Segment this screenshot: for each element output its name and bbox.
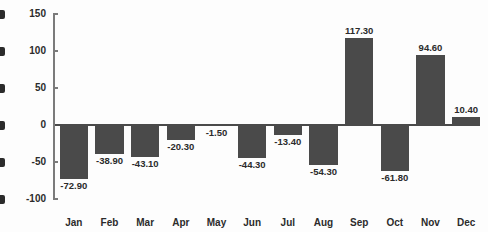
- x-axis-category-label: Feb: [92, 217, 128, 228]
- bar: [95, 125, 124, 154]
- bar: [238, 125, 267, 158]
- bar: [416, 55, 445, 125]
- bar: [381, 125, 410, 171]
- bar: [131, 125, 160, 157]
- x-axis-category-label: Sep: [341, 217, 377, 228]
- bar: [202, 125, 231, 126]
- bar: [274, 125, 303, 135]
- edge-fragment-0: [0, 121, 5, 130]
- edge-fragment-50: [0, 84, 5, 93]
- bar: [345, 38, 374, 125]
- x-axis-category-label: Jun: [234, 217, 270, 228]
- edge-fragment-100: [0, 47, 5, 56]
- bar-chart: 150100500-50-100 -72.90-38.90-43.10-20.3…: [0, 0, 488, 232]
- bar-value-label: -54.30: [306, 167, 342, 177]
- bar: [60, 125, 89, 179]
- y-axis-tick-labels: 150100500-50-100: [14, 0, 46, 232]
- bar-value-label: -61.80: [377, 173, 413, 183]
- x-axis-category-label: Jan: [56, 217, 92, 228]
- bar-value-label: -1.50: [199, 128, 235, 138]
- x-axis-category-label: Oct: [377, 217, 413, 228]
- x-axis-category-label: Dec: [448, 217, 484, 228]
- bar: [167, 125, 196, 140]
- bar-value-label: -44.30: [234, 160, 270, 170]
- bar-value-label: -13.40: [270, 137, 306, 147]
- y-axis-tick-label: 100: [29, 46, 46, 56]
- y-axis-tick-label: 50: [35, 83, 46, 93]
- bar-value-label: -43.10: [127, 159, 163, 169]
- x-axis-category-label: Nov: [413, 217, 449, 228]
- x-axis-category-label: May: [199, 217, 235, 228]
- bar-value-label: 10.40: [448, 105, 484, 115]
- bar-value-label: -72.90: [56, 181, 92, 191]
- bar-value-label: -20.30: [163, 142, 199, 152]
- y-axis-tick-label: -50: [32, 157, 46, 167]
- x-axis-category-label: Apr: [163, 217, 199, 228]
- x-axis-category-label: Aug: [306, 217, 342, 228]
- y-axis-tick-label: 150: [29, 9, 46, 19]
- edge-fragment-150: [0, 10, 5, 19]
- x-axis-category-label: Mar: [127, 217, 163, 228]
- y-axis-tick-label: -100: [26, 194, 46, 204]
- edge-fragment-neg50: [0, 158, 5, 167]
- bar-value-label: 117.30: [341, 26, 377, 36]
- y-axis-tick-label: 0: [40, 120, 46, 130]
- plot-area: -72.90-38.90-43.10-20.30-1.50-44.30-13.4…: [55, 0, 488, 232]
- x-axis-category-label: Jul: [270, 217, 306, 228]
- bar: [452, 117, 481, 125]
- bar-value-label: -38.90: [92, 156, 128, 166]
- bar: [309, 125, 338, 165]
- edge-fragment-neg100: [0, 195, 5, 204]
- bar-value-label: 94.60: [413, 43, 449, 53]
